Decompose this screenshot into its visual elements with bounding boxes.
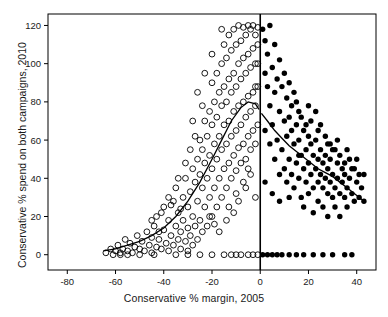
data-point [202,204,208,210]
data-point [337,214,342,219]
data-point [197,172,203,178]
data-point [303,179,308,184]
data-point [228,175,234,181]
data-point [199,185,205,191]
data-point [216,229,222,235]
data-point [347,176,352,181]
data-point [236,61,242,67]
data-point [199,147,205,153]
data-point [301,204,306,209]
data-point [221,42,227,48]
data-point [330,195,335,200]
data-point [270,252,275,257]
data-point [214,204,220,210]
data-point [224,99,230,105]
data-point [212,99,218,105]
data-point [144,229,150,235]
data-point [313,137,318,142]
data-point [262,71,267,76]
data-point [214,156,220,162]
x-axis-tick-label: 40 [351,276,362,287]
data-point [228,133,234,139]
data-point [311,252,316,257]
data-point [195,237,201,243]
data-point [286,195,291,200]
data-point [175,175,181,181]
data-point [195,156,201,162]
data-point [199,229,205,235]
data-point [243,32,249,38]
data-point [349,252,354,257]
data-point [245,51,251,57]
data-point [248,147,254,153]
data-point [187,233,193,239]
data-point [171,242,177,248]
data-point [342,195,347,200]
data-point [296,109,301,114]
data-point [274,137,279,142]
data-point [219,147,225,153]
data-point [318,172,323,177]
data-point [243,185,249,191]
data-point [318,147,323,152]
data-point [272,42,277,47]
data-point [224,55,230,61]
data-point [197,252,203,258]
data-point [195,198,201,204]
data-point [267,141,272,146]
data-point [173,185,179,191]
data-point [226,204,232,210]
data-point [214,114,220,120]
data-point [299,195,304,200]
data-point [253,32,259,38]
scatter-plot: -80-60-40-2002040020406080100120 [0,0,388,317]
data-point [320,252,325,257]
data-point [282,118,287,123]
data-point [226,32,232,38]
data-point [180,217,186,223]
data-point [332,204,337,209]
data-point [306,134,311,139]
data-point [274,252,279,257]
data-point [221,84,227,90]
data-point [311,153,316,158]
x-axis-tick-label: -80 [60,276,74,287]
data-point [320,185,325,190]
data-point [236,198,242,204]
data-point [262,128,267,133]
data-point [226,76,232,82]
data-point [204,175,210,181]
data-point [175,237,181,243]
data-point [301,128,306,133]
data-point [267,23,272,28]
data-point [231,109,237,115]
data-point [219,26,225,32]
data-point [161,204,167,210]
data-point [192,133,198,139]
data-point [209,122,215,128]
data-point [323,176,328,181]
data-point [190,166,196,172]
data-point [125,252,131,258]
data-point [224,141,230,147]
data-point [284,134,289,139]
data-point [270,65,275,70]
data-point [265,252,270,257]
data-point [286,156,291,161]
data-point [260,252,265,257]
data-point [233,84,239,90]
data-point [296,137,301,142]
data-point [243,156,249,162]
data-point [277,57,282,62]
data-point [318,122,323,127]
data-point [303,147,308,152]
y-axis-tick-label: 120 [25,20,41,31]
data-point [228,47,234,53]
data-point [233,168,239,174]
y-axis-tick-label: 80 [30,96,41,107]
data-point [291,90,296,95]
data-point [294,99,299,104]
data-point [325,191,330,196]
data-point [340,166,345,171]
data-point [245,133,251,139]
